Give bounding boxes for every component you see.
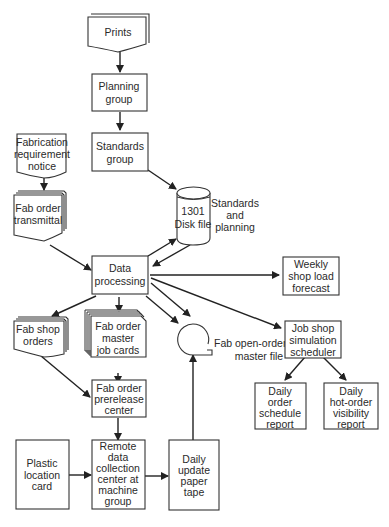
node-label: shop load: [288, 270, 334, 282]
node-fab-order-prerelease-center: Fab order prerelease center: [92, 380, 146, 417]
node-label: Data: [109, 262, 131, 274]
node-label: group: [106, 93, 133, 105]
node-label: orders: [23, 335, 53, 347]
node-label: Prints: [105, 26, 132, 38]
edge-standards-disk: [148, 170, 176, 189]
edge-dataproc-openorder-2: [151, 283, 190, 316]
node-fab-open-order-master-file: Fab open-order master file: [178, 324, 287, 362]
side-label: Fab open-order: [214, 337, 287, 349]
node-fab-shop-orders: Fab shop orders: [14, 317, 68, 357]
edge-dataproc-openorder-1: [146, 296, 178, 323]
node-plastic-location-card: Plastic location card: [16, 440, 69, 509]
edge-shoporders-prerelease: [41, 356, 90, 397]
node-remote-data-collection-center: Remote data collection center at machine…: [92, 440, 145, 509]
node-daily-hot-order-visibility-report: Daily hot-order visibility report: [324, 383, 378, 430]
edge-dataproc-jobshop: [151, 278, 281, 328]
node-prints: Prints: [88, 14, 149, 52]
edge-transmittal-dataproc: [50, 245, 91, 270]
node-label: master: [102, 332, 135, 344]
edge-dataproc-disk: [148, 239, 176, 256]
side-label: Standards: [211, 197, 259, 209]
node-weekly-shop-load-forecast: Weekly shop load forecast: [283, 257, 339, 295]
node-standards-group: Standards group: [92, 133, 148, 171]
node-label: Plastic: [27, 457, 58, 469]
node-label: scheduler: [290, 346, 336, 358]
edge-jobshop-hotorder: [323, 357, 346, 380]
edge-jobshop-schedule: [285, 357, 305, 380]
node-label: Weekly: [294, 258, 329, 270]
node-label: Planning: [99, 80, 140, 92]
node-label: job cards: [96, 344, 140, 356]
flowchart-canvas: Prints Planning group Standards group 13…: [0, 0, 389, 527]
side-label: master file: [235, 350, 284, 362]
node-label: Job shop: [292, 322, 335, 334]
node-fab-order-master-job-cards: Fab order master job cards: [85, 310, 146, 357]
edge-dataproc-shoporders: [52, 296, 96, 316]
side-label: planning: [215, 221, 255, 233]
node-disk-file: 1301 Disk file Standards and planning: [175, 187, 259, 245]
node-label: tape: [184, 486, 205, 498]
node-label: center: [104, 404, 134, 416]
node-fab-order-transmittal: Fab order transmittal: [14, 191, 66, 241]
node-fabrication-requirement-notice: Fabrication requirement notice: [14, 134, 70, 178]
node-label: processing: [95, 275, 146, 287]
node-label: report: [266, 418, 294, 430]
node-label: report: [337, 418, 365, 430]
node-label: Fab order: [95, 320, 141, 332]
node-label: simulation: [289, 334, 336, 346]
edge-disk-dataproc: [153, 245, 190, 266]
node-planning-group: Planning group: [92, 74, 147, 111]
node-label: Fabrication: [16, 136, 68, 148]
node-label: card: [32, 480, 53, 492]
node-data-processing: Data processing: [92, 256, 148, 294]
node-label: group: [105, 495, 132, 507]
node-label: Fab shop: [16, 323, 60, 335]
node-daily-update-paper-tape: Daily update paper tape: [169, 440, 219, 510]
node-label: notice: [28, 160, 56, 172]
node-label: 1301: [181, 205, 205, 217]
node-label: requirement: [14, 148, 70, 160]
node-label: transmittal: [14, 214, 62, 226]
node-label: forecast: [292, 282, 329, 294]
node-label: Disk file: [175, 218, 212, 230]
side-label: and: [226, 209, 244, 221]
node-job-shop-simulation-scheduler: Job shop simulation scheduler: [285, 321, 341, 358]
node-label: Standards: [96, 140, 144, 152]
node-label: group: [107, 153, 134, 165]
node-daily-order-schedule-report: Daily order schedule report: [255, 383, 306, 430]
node-label: Fab order: [15, 202, 61, 214]
